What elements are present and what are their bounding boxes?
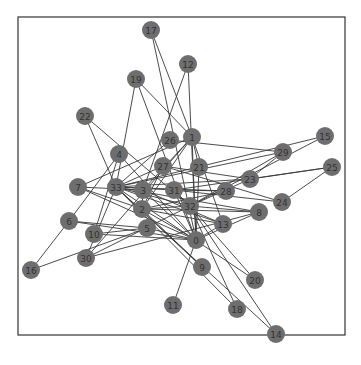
node-label: 30	[80, 254, 92, 264]
node-26: 26	[161, 131, 179, 149]
node-3: 3	[134, 181, 152, 199]
node-label: 17	[145, 26, 156, 36]
node-label: 11	[167, 301, 178, 311]
edge-24-25	[282, 167, 332, 202]
node-label: 32	[184, 202, 195, 212]
node-label: 8	[256, 208, 262, 218]
node-24: 24	[273, 193, 291, 211]
node-label: 26	[164, 136, 176, 146]
node-28: 28	[217, 182, 235, 200]
node-label: 15	[319, 132, 330, 142]
node-17: 17	[142, 21, 160, 39]
node-13: 13	[214, 215, 232, 233]
node-label: 20	[249, 276, 261, 286]
node-6: 6	[60, 212, 78, 230]
node-2: 2	[133, 200, 151, 218]
node-label: 29	[277, 148, 289, 158]
node-label: 2	[139, 205, 145, 215]
node-label: 1	[189, 133, 195, 143]
node-16: 16	[22, 261, 40, 279]
node-label: 22	[79, 112, 90, 122]
node-label: 31	[168, 186, 179, 196]
node-label: 18	[231, 305, 243, 315]
node-label: 5	[144, 224, 150, 234]
edge-1-19	[136, 79, 192, 137]
node-8: 8	[250, 203, 268, 221]
node-33: 33	[107, 178, 125, 196]
node-22: 22	[76, 107, 94, 125]
node-15: 15	[316, 127, 334, 145]
nodes-layer: 0123456789101112131415161718192021222324…	[22, 21, 341, 343]
node-label: 25	[326, 163, 337, 173]
node-label: 7	[75, 183, 81, 193]
node-11: 11	[164, 296, 182, 314]
node-label: 12	[182, 60, 193, 70]
node-12: 12	[179, 55, 197, 73]
node-32: 32	[181, 197, 199, 215]
node-19: 19	[127, 70, 145, 88]
node-label: 33	[110, 183, 121, 193]
node-label: 10	[88, 230, 100, 240]
node-label: 19	[130, 75, 142, 85]
node-label: 21	[193, 163, 204, 173]
node-label: 4	[116, 150, 122, 160]
edge-19-33	[116, 79, 136, 187]
node-9: 9	[193, 258, 211, 276]
network-graph: 0123456789101112131415161718192021222324…	[0, 0, 361, 365]
node-25: 25	[323, 158, 341, 176]
node-4: 4	[110, 145, 128, 163]
node-label: 13	[217, 220, 228, 230]
node-18: 18	[228, 300, 246, 318]
node-label: 28	[220, 187, 232, 197]
node-21: 21	[190, 158, 208, 176]
node-20: 20	[246, 271, 264, 289]
node-27: 27	[154, 157, 172, 175]
node-label: 3	[140, 186, 146, 196]
node-label: 6	[66, 217, 72, 227]
node-5: 5	[138, 219, 156, 237]
node-0: 0	[187, 231, 205, 249]
node-label: 27	[157, 162, 168, 172]
node-23: 23	[241, 170, 259, 188]
node-14: 14	[267, 325, 285, 343]
node-1: 1	[183, 128, 201, 146]
node-label: 23	[244, 175, 255, 185]
node-label: 9	[199, 263, 205, 273]
node-29: 29	[274, 143, 292, 161]
node-label: 16	[25, 266, 37, 276]
node-label: 0	[193, 236, 199, 246]
edge-1-17	[151, 30, 192, 137]
node-label: 24	[276, 198, 288, 208]
node-31: 31	[165, 181, 183, 199]
edge-15-33	[116, 136, 325, 187]
node-7: 7	[69, 178, 87, 196]
node-label: 14	[270, 330, 282, 340]
node-10: 10	[85, 225, 103, 243]
node-30: 30	[77, 249, 95, 267]
